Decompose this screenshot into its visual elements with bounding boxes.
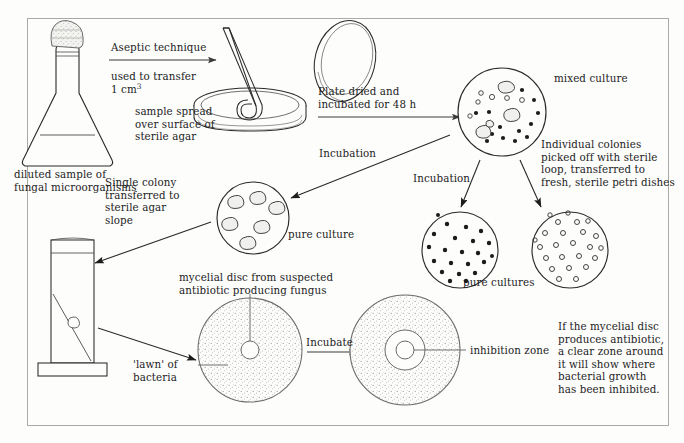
volume-value: 1 cm [111,83,137,95]
label-mycelial-disc: mycelial disc from suspected antibiotic … [179,271,333,296]
label-aseptic-technique: Aseptic technique [111,41,206,54]
inhibition-zone-plate-figure [350,295,466,405]
label-used-to-transfer: used to transfer1 cm3 [111,70,196,95]
mixed-culture-plate-figure [458,68,546,156]
arrow-colonies-to-ring-plate [520,160,541,207]
agar-slope-tube-figure [38,238,107,376]
label-conclusion: If the mycelial disc produces antibiotic… [558,320,664,396]
label-pure-cultures: pure cultures [463,276,535,289]
label-mixed-culture: mixed culture [554,72,628,85]
label-incubation-left: Incubation [319,147,376,160]
flask-figure [22,21,112,166]
label-single-colony: Single colony transferred to sterile aga… [105,176,180,226]
diagram-canvas: Aseptic technique used to transfer1 cm3 … [0,0,684,443]
pure-culture-plate-figure [217,182,289,254]
lawn-plate-figure [198,294,302,402]
volume-exponent: 3 [137,81,142,90]
arrow-slope-to-lawn-plate [98,328,196,360]
label-inhibition-zone: inhibition zone [470,344,549,357]
label-lawn-of-bacteria: 'lawn' of bacteria [133,358,178,383]
pure-culture-ring-plate-figure [532,211,608,288]
arrow-single-colony-to-slope [95,222,211,263]
label-plate-dried: Plate dried and incubated for 48 h [318,85,416,110]
label-pure-culture: pure culture [288,228,354,241]
label-individual-colonies: Individual colonies picked off with ster… [541,138,675,188]
arrow-incubation-to-pure-culture [291,135,450,198]
label-incubate: Incubate [306,336,353,349]
label-incubation-right: Incubation [413,172,470,185]
used-to-transfer-text: used to transfer [111,70,196,82]
label-sample-spread: sample spread over surface of sterile ag… [135,105,215,143]
